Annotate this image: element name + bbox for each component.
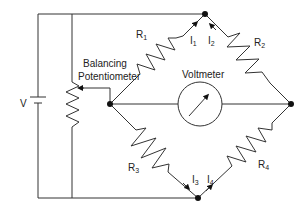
i4-label: I4	[207, 174, 214, 186]
voltmeter-label: Voltmeter	[182, 69, 225, 80]
potentiometer-label-line2: Potentiometer	[78, 71, 141, 82]
i2-label: I2	[208, 35, 215, 47]
current-arrow-i2	[211, 25, 216, 30]
node-bottom	[195, 195, 201, 201]
node-right	[288, 101, 294, 107]
i3-label: I3	[192, 174, 199, 186]
r3-label: R3	[128, 162, 139, 174]
source-label: V	[20, 98, 27, 109]
r1-label: R1	[136, 29, 147, 41]
current-arrow-i1	[189, 23, 196, 30]
potentiometer-label-line1: Balancing	[83, 58, 127, 69]
i1-label: I1	[190, 35, 197, 47]
current-arrow-i4	[206, 186, 211, 191]
node-top	[202, 11, 208, 17]
r2-label: R2	[254, 37, 265, 49]
potentiometer	[66, 82, 84, 127]
r4-label: R4	[258, 159, 269, 171]
node-left	[107, 101, 113, 107]
voltmeter-icon	[178, 82, 222, 126]
battery-icon	[30, 97, 46, 112]
circuit-diagram: V Balancing Potentiometer Voltmeter R1 R…	[0, 0, 308, 213]
